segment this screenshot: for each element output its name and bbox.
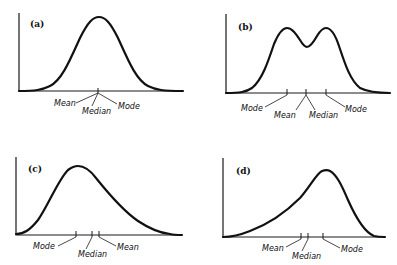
panel-b: (b) Mode Mean Median Mode [226, 14, 390, 120]
panel-c-label: (c) [28, 164, 42, 174]
panel-a-mode-label: Mode [118, 102, 140, 111]
panel-d-median-label: Median [292, 252, 321, 261]
panel-b-median-leader [306, 95, 315, 110]
panel-c-median-label: Median [78, 250, 107, 259]
panel-b-mode-right-label: Mode [345, 105, 367, 114]
panel-b-mode-left-label: Mode [241, 104, 263, 113]
panel-d-label: (d) [236, 166, 251, 176]
panel-d-median-leader [302, 239, 308, 251]
panel-c-mean-label: Mean [117, 243, 139, 252]
panel-d-mode-leader [323, 239, 340, 248]
panel-c-mode-label: Mode [33, 242, 55, 251]
panel-b-mode-right-leader [326, 95, 345, 107]
panel-d-curve [223, 170, 385, 237]
panel-d-mode-label: Mode [341, 245, 363, 254]
panel-a: (a) Mean Median Mode [19, 13, 183, 116]
panel-c-mean-leader [99, 237, 116, 246]
panel-d-mean-leader [286, 239, 301, 247]
panel-c-median-leader [86, 237, 92, 249]
distribution-figure: (a) Mean Median Mode (b) Mode Mean Media… [0, 0, 397, 265]
panel-a-mode-leader [98, 93, 117, 104]
panel-b-label: (b) [238, 22, 253, 32]
panel-d-mean-label: Mean [262, 244, 284, 253]
panel-b-median-label: Median [309, 111, 338, 120]
panel-a-mean-leader [76, 93, 98, 103]
panel-b-mode-left-leader [265, 95, 287, 107]
panel-d: (d) Mean Median Mode [223, 158, 385, 261]
panel-c-mode-leader [58, 237, 76, 246]
panel-c-curve [16, 166, 182, 235]
panel-c: (c) Mode Median Mean [16, 157, 182, 259]
panel-b-mean-leader [296, 95, 306, 110]
panel-a-label: (a) [30, 19, 44, 29]
panel-a-mean-label: Mean [54, 99, 76, 108]
panel-b-curve [226, 28, 390, 93]
panel-b-mean-label: Mean [274, 111, 296, 120]
panel-a-median-label: Median [82, 107, 111, 116]
